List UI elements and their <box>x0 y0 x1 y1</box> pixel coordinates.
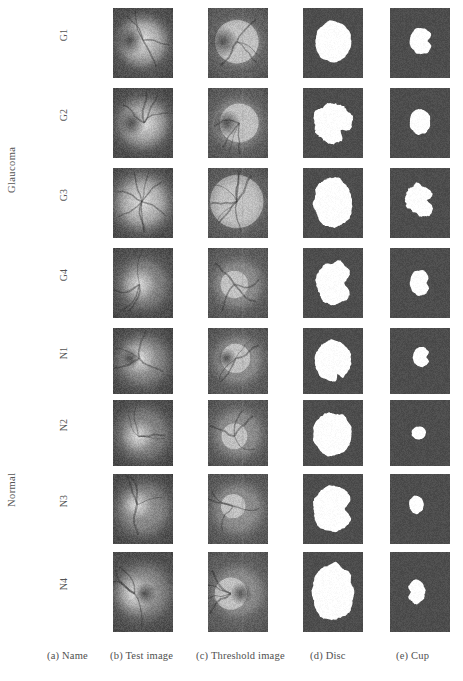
cell-g1-disc <box>303 8 363 78</box>
test-image <box>113 8 173 78</box>
disc-image <box>303 400 363 466</box>
cell-g1-threshold <box>208 8 268 78</box>
cup-image <box>390 400 450 466</box>
row-name-g4: G4 <box>58 269 74 281</box>
column-caption-cup: (e) Cup <box>396 650 429 661</box>
cell-n2-threshold <box>208 400 268 466</box>
cell-g2-disc <box>303 88 363 158</box>
cup-image <box>390 8 450 78</box>
cell-n1-disc <box>303 328 363 394</box>
threshold-image <box>208 88 268 158</box>
row-name-n1: N1 <box>58 347 74 359</box>
cell-n3-test <box>113 474 173 544</box>
test-image <box>113 474 173 544</box>
cell-g2-test <box>113 88 173 158</box>
cup-image <box>390 328 450 394</box>
cell-n3-threshold <box>208 474 268 544</box>
disc-image <box>303 88 363 158</box>
group-label-normal: Normal <box>6 435 17 545</box>
disc-image <box>303 248 363 318</box>
row-name-g2: G2 <box>58 109 74 121</box>
group-label-glaucoma: Glaucoma <box>6 110 17 230</box>
cell-n2-test <box>113 400 173 466</box>
column-caption-threshold-image: (c) Threshold image <box>196 650 285 661</box>
threshold-image <box>208 474 268 544</box>
row-name-n3: N3 <box>58 495 74 507</box>
disc-image <box>303 8 363 78</box>
disc-image <box>303 552 363 632</box>
cell-n1-threshold <box>208 328 268 394</box>
cell-g2-cup <box>390 88 450 158</box>
row-name-n2: N2 <box>58 419 74 431</box>
row-name-g3: G3 <box>58 189 74 201</box>
cup-image <box>390 248 450 318</box>
cup-image <box>390 474 450 544</box>
cell-n1-test <box>113 328 173 394</box>
cell-n1-cup <box>390 328 450 394</box>
cell-g4-threshold <box>208 248 268 318</box>
cell-n2-disc <box>303 400 363 466</box>
test-image <box>113 328 173 394</box>
cup-image <box>390 168 450 238</box>
cup-image <box>390 88 450 158</box>
cell-g1-test <box>113 8 173 78</box>
cell-g4-test <box>113 248 173 318</box>
row-name-g1: G1 <box>58 29 74 41</box>
cell-n4-disc <box>303 552 363 632</box>
cell-n3-disc <box>303 474 363 544</box>
cell-n3-cup <box>390 474 450 544</box>
cell-n4-test <box>113 552 173 632</box>
threshold-image <box>208 248 268 318</box>
cell-n2-cup <box>390 400 450 466</box>
threshold-image <box>208 168 268 238</box>
cell-g3-threshold <box>208 168 268 238</box>
column-caption-test-image: (b) Test image <box>110 650 173 661</box>
threshold-image <box>208 328 268 394</box>
threshold-image <box>208 8 268 78</box>
cell-g3-test <box>113 168 173 238</box>
test-image <box>113 552 173 632</box>
column-caption-name: (a) Name <box>47 650 88 661</box>
cell-n4-threshold <box>208 552 268 632</box>
test-image <box>113 88 173 158</box>
threshold-image <box>208 400 268 466</box>
cell-g2-threshold <box>208 88 268 158</box>
cup-image <box>390 552 450 632</box>
row-name-n4: N4 <box>58 578 74 590</box>
disc-image <box>303 328 363 394</box>
disc-image <box>303 474 363 544</box>
test-image <box>113 168 173 238</box>
cell-g1-cup <box>390 8 450 78</box>
test-image <box>113 248 173 318</box>
column-caption-disc: (d) Disc <box>310 650 346 661</box>
cell-g4-disc <box>303 248 363 318</box>
cell-n4-cup <box>390 552 450 632</box>
cell-g3-cup <box>390 168 450 238</box>
cell-g3-disc <box>303 168 363 238</box>
test-image <box>113 400 173 466</box>
disc-image <box>303 168 363 238</box>
cell-g4-cup <box>390 248 450 318</box>
threshold-image <box>208 552 268 632</box>
figure-image-grid: Glaucoma Normal G1G2G3G4N1N2N3N4 (a) Nam… <box>0 0 463 681</box>
